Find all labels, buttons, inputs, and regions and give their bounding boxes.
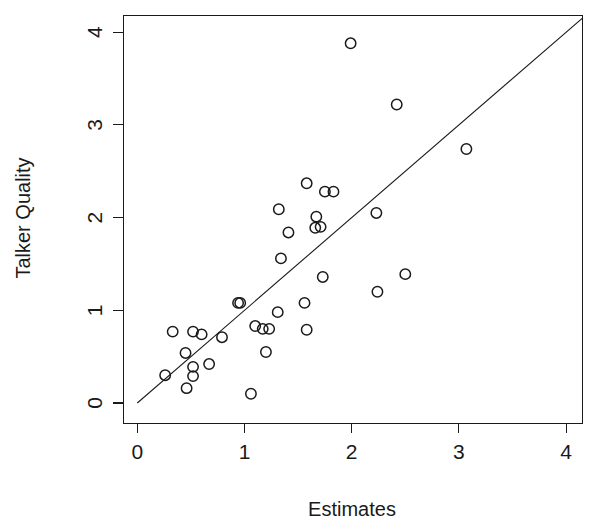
y-axis-title: Talker Quality	[12, 157, 34, 278]
x-tick-label: 0	[131, 440, 143, 463]
data-point	[204, 359, 214, 369]
y-tick-label: 4	[83, 26, 106, 38]
y-axis: 01234	[83, 16, 124, 424]
data-point	[180, 348, 190, 358]
data-point	[371, 208, 381, 218]
data-point	[167, 326, 177, 336]
y-tick-label: 3	[83, 119, 106, 131]
data-point	[217, 332, 227, 342]
y-tick-label: 1	[83, 304, 106, 316]
y-tick-label: 0	[83, 397, 106, 409]
data-point	[246, 389, 256, 399]
x-tick-label: 4	[560, 440, 572, 463]
data-point	[299, 298, 309, 308]
data-point	[301, 325, 311, 335]
scatter-plot-figure: 01234 01234 Estimates Talker Quality	[0, 0, 602, 531]
data-point	[274, 204, 284, 214]
data-point	[283, 227, 293, 237]
data-points-layer	[160, 38, 472, 399]
data-point	[261, 347, 271, 357]
data-point	[318, 272, 328, 282]
data-point	[273, 307, 283, 317]
data-point	[392, 99, 402, 109]
data-point	[181, 383, 191, 393]
data-point	[461, 144, 471, 154]
x-tick-label: 1	[239, 440, 251, 463]
x-tick-label: 2	[346, 440, 358, 463]
x-tick-label: 3	[453, 440, 465, 463]
data-point	[301, 178, 311, 188]
data-point	[372, 287, 382, 297]
data-point	[264, 324, 274, 334]
identity-reference-line	[137, 18, 582, 403]
x-axis: 01234	[123, 423, 582, 463]
x-axis-title: Estimates	[308, 498, 396, 520]
y-tick-label: 2	[83, 212, 106, 224]
data-point	[276, 253, 286, 263]
data-point	[345, 38, 355, 48]
plot-canvas: 01234 01234 Estimates Talker Quality	[0, 0, 602, 531]
data-point	[400, 269, 410, 279]
data-point	[311, 211, 321, 221]
